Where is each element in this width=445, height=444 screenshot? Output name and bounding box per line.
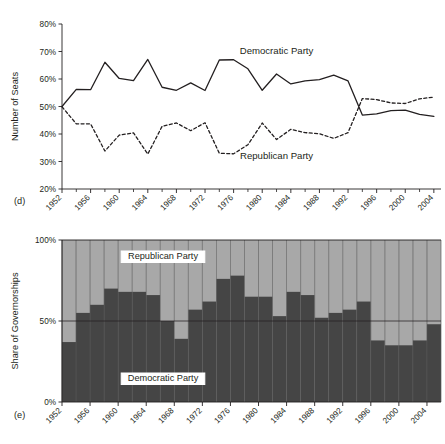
x-tick-label: 1968: [159, 193, 179, 213]
bar-segment-democratic: [104, 289, 118, 402]
y-tick-label: 0%: [44, 398, 56, 407]
x-tick-label: 1984: [273, 193, 293, 213]
series-annotation-republican-party: Republican Party: [240, 150, 313, 161]
x-tick-label: 2000: [387, 193, 407, 213]
x-tick-label: 1972: [187, 193, 207, 213]
bar-segment-democratic: [371, 340, 385, 402]
x-tick-label: 2004: [409, 406, 429, 426]
x-tick-label: 1980: [241, 406, 261, 426]
bar-segment-democratic: [216, 279, 230, 402]
y-tick-label: 80%: [40, 20, 56, 29]
bar-segment-democratic: [160, 321, 174, 402]
series-annotation-democratic-party: Democratic Party: [121, 373, 205, 385]
bar-segment-democratic: [62, 342, 76, 402]
bar-segment-democratic: [132, 292, 146, 402]
y-tick-label: 40%: [40, 130, 56, 139]
label-text: Democratic Party: [128, 373, 199, 383]
x-tick-label: 1956: [72, 406, 92, 426]
line-chart-canvas: 20%30%40%50%60%70%80%1952195619601964196…: [0, 0, 445, 222]
x-tick-label: 2000: [381, 406, 401, 426]
y-tick-label: 30%: [40, 158, 56, 167]
bar-segment-democratic: [287, 292, 301, 402]
y-tick-label: 50%: [40, 103, 56, 112]
bar-segment-democratic: [76, 313, 90, 402]
figure-d-seats-line-chart: 20%30%40%50%60%70%80%1952195619601964196…: [0, 0, 445, 222]
bar-segment-democratic: [259, 297, 273, 402]
x-tick-label: 1992: [325, 406, 345, 426]
stacked-bar-chart-canvas: 0%50%100%1952195619601964196819721976198…: [0, 222, 445, 444]
x-tick-label: 1976: [216, 193, 236, 213]
y-axis-title: Share of Governorships: [10, 272, 20, 369]
y-tick-label: 70%: [40, 48, 56, 57]
bar-segment-democratic: [343, 310, 357, 402]
bar-segment-democratic: [146, 295, 160, 402]
bar-segment-democratic: [301, 295, 315, 402]
x-tick-label: 1976: [213, 406, 233, 426]
y-axis-title: Number of Seats: [10, 72, 20, 141]
series-line-democratic-party: [62, 59, 434, 116]
x-tick-label: 1968: [156, 406, 176, 426]
bar-segment-democratic: [315, 318, 329, 402]
x-tick-label: 1960: [100, 406, 120, 426]
bar-segment-democratic: [329, 313, 343, 402]
y-tick-label: 50%: [40, 317, 56, 326]
panel-letter-d: (d): [14, 196, 25, 206]
label-text: Republican Party: [128, 251, 198, 261]
series-line-republican-party: [62, 97, 434, 154]
bar-segment-democratic: [399, 345, 413, 402]
bar-segment-democratic: [427, 324, 441, 402]
bar-segment-democratic: [90, 305, 104, 402]
y-tick-label: 60%: [40, 75, 56, 84]
x-tick-label: 1992: [330, 193, 350, 213]
x-tick-label: 1952: [44, 406, 64, 426]
x-tick-label: 1996: [353, 406, 373, 426]
figure-e-governorships-bar-chart: 0%50%100%1952195619601964196819721976198…: [0, 222, 445, 444]
x-tick-label: 1964: [128, 406, 148, 426]
bar-segment-democratic: [188, 310, 202, 402]
bar-segment-democratic: [273, 316, 287, 402]
x-tick-label: 1972: [185, 406, 205, 426]
y-tick-label: 100%: [35, 236, 56, 245]
bar-segment-democratic: [202, 302, 216, 402]
x-tick-label: 1984: [269, 406, 289, 426]
x-tick-label: 1996: [359, 193, 379, 213]
bar-segment-democratic: [174, 339, 188, 402]
x-tick-label: 1956: [73, 193, 93, 213]
x-tick-label: 1960: [101, 193, 121, 213]
bar-segment-democratic: [118, 292, 132, 402]
x-tick-label: 2004: [416, 193, 436, 213]
bar-segment-democratic: [413, 340, 427, 402]
bar-segment-democratic: [230, 276, 244, 402]
bar-segment-democratic: [357, 302, 371, 402]
x-tick-label: 1952: [44, 193, 64, 213]
panel-letter-e: (e): [14, 410, 25, 420]
x-tick-label: 1988: [297, 406, 317, 426]
y-tick-label: 20%: [40, 185, 56, 194]
bar-segment-democratic: [244, 297, 258, 402]
series-annotation-republican-party: Republican Party: [121, 251, 205, 263]
x-tick-label: 1988: [302, 193, 322, 213]
series-annotation-democratic-party: Democratic Party: [240, 45, 314, 56]
bar-segment-democratic: [385, 345, 399, 402]
x-tick-label: 1964: [130, 193, 150, 213]
x-tick-label: 1980: [244, 193, 264, 213]
